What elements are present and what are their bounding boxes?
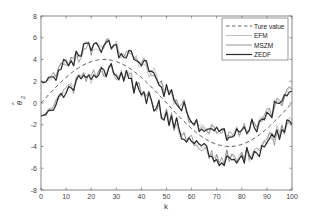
y-axis-label-subscript: 2 [20, 96, 26, 99]
x-tick-label: 70 [213, 193, 221, 200]
y-axis-label-hat: ^ [11, 102, 17, 105]
x-tick-label: 100 [286, 193, 298, 200]
x-tick-label: 80 [238, 193, 246, 200]
x-tick-label: 40 [138, 193, 146, 200]
x-tick-label: 20 [87, 193, 95, 200]
x-tick-label: 30 [112, 193, 120, 200]
x-tick-label: 90 [263, 193, 271, 200]
y-tick-label: 2 [33, 78, 37, 85]
legend-label: MSZM [254, 42, 273, 49]
y-tick-label: -8 [31, 187, 37, 194]
legend-label: Ture value [254, 23, 285, 30]
legend-label: EFM [254, 32, 268, 39]
y-tick-label: 8 [33, 13, 37, 20]
x-tick-label: 0 [39, 193, 43, 200]
chart: 0102030405060708090100-8-6-4-202468 k θ … [0, 0, 312, 220]
x-tick-label: 60 [188, 193, 196, 200]
y-tick-label: 4 [33, 56, 37, 63]
x-tick-label: 10 [62, 193, 70, 200]
y-tick-label: -2 [31, 121, 37, 128]
y-tick-label: 0 [33, 100, 37, 107]
y-tick-label: -6 [31, 165, 37, 172]
legend-label: ZEDF [254, 51, 271, 58]
x-tick-label: 50 [163, 193, 171, 200]
y-tick-label: 6 [33, 34, 37, 41]
legend: Ture value EFM MSZM ZEDF [222, 18, 288, 60]
y-tick-label: -4 [31, 143, 37, 150]
